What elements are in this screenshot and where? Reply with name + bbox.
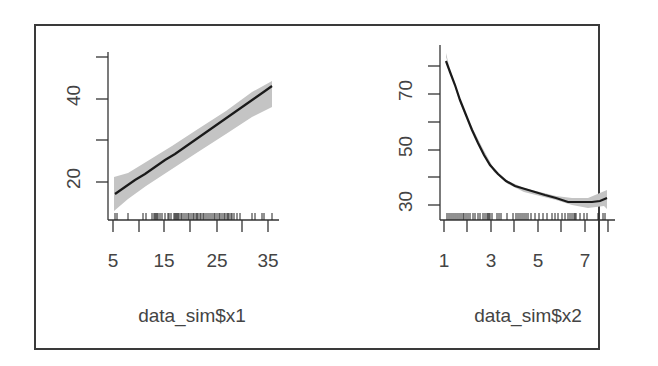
y-tick-label: 30: [395, 191, 416, 212]
plot-x2: 30 50 70: [395, 45, 615, 327]
fit-line: [446, 61, 607, 202]
x-tick-label: 25: [206, 250, 227, 271]
figure-canvas: 20 40: [0, 0, 658, 366]
x-tick-label: 1: [439, 250, 450, 271]
x-axis-title: data_sim$x2: [474, 305, 582, 327]
x-ticks: [444, 220, 608, 232]
x-tick-label: 5: [533, 250, 544, 271]
y-tick-label: 40: [63, 85, 84, 106]
x-axis-title: data_sim$x1: [138, 305, 246, 327]
x-tick-label: 5: [108, 250, 119, 271]
y-ticks: [428, 66, 440, 205]
x-tick-label: 7: [580, 250, 591, 271]
confidence-band: [114, 81, 272, 211]
x-ticks: [113, 220, 268, 232]
fit-line: [115, 86, 272, 194]
confidence-band: [446, 53, 607, 209]
x-tick-label: 35: [257, 250, 278, 271]
rug: [447, 213, 605, 220]
rug: [115, 213, 272, 220]
plot-x1: 20 40: [63, 52, 279, 327]
y-ticks: [96, 57, 108, 182]
y-tick-label: 20: [63, 168, 84, 189]
x-tick-label: 3: [486, 250, 497, 271]
y-tick-label: 70: [395, 80, 416, 101]
x-tick-label: 15: [153, 250, 174, 271]
y-tick-label: 50: [395, 136, 416, 157]
